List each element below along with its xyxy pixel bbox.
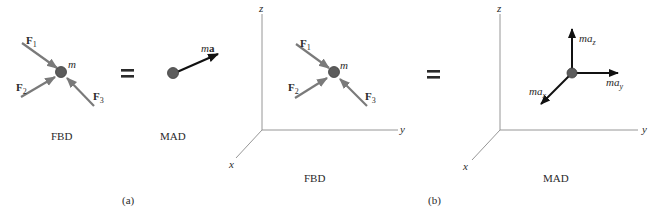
force-f3-arrow [340,79,367,106]
x-axis [472,130,500,160]
equals-sign-a [121,69,134,78]
force-f2-label: F2 [16,81,27,96]
particle [56,67,67,78]
ma-vector-label: ma [201,42,215,54]
fbd-b: z y x m F1 F2 F3 FBD [228,2,405,184]
fbd-label: FBD [304,172,325,184]
z-axis-label: z [496,2,502,14]
fbd-mad-diagram: m F1 F2 F3 FBD ma MAD (a) z [0,0,660,222]
caption-a: (a) [122,194,135,207]
mad-label: MAD [160,130,186,142]
y-axis-label: y [641,123,647,135]
acceleration-ma-arrow [177,54,218,72]
force-f3-label: F3 [93,90,104,105]
ma-x-label: max [529,85,546,100]
mad-label: MAD [543,172,569,184]
mad-a: ma MAD [160,42,218,142]
ma-z-label: maz [579,32,596,47]
panel-a: m F1 F2 F3 FBD ma MAD (a) [16,34,218,207]
mass-label: m [68,58,76,70]
force-f2-label: F2 [288,81,299,96]
mass-label: m [340,59,348,71]
y-axis-label: y [399,123,405,135]
caption-b: (b) [428,194,441,207]
x-axis-label: x [462,160,468,172]
force-f1-arrow [22,43,57,68]
particle [329,67,340,78]
x-axis [236,130,262,158]
particle [567,68,577,78]
ma-y-label: may [606,76,623,91]
force-f3-label: F3 [365,90,376,105]
axes: z y x [228,2,405,170]
x-axis-label: x [228,158,234,170]
fbd-a: m F1 F2 F3 FBD [16,34,104,142]
fbd-label: FBD [51,130,72,142]
force-f3-arrow [67,78,94,106]
particle [168,68,179,79]
equals-sign-b [427,70,440,79]
z-axis-label: z [258,2,264,14]
mad-b: z y x maz may max MAD [462,2,647,184]
panel-b: z y x m F1 F2 F3 FBD z [228,2,647,207]
force-f2-arrow [295,78,327,98]
